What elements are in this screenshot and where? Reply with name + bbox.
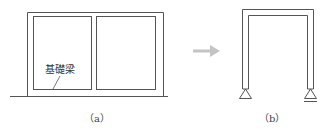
roller-support-icon [304, 89, 317, 102]
caption-b: （b） [259, 110, 285, 125]
caption-a: （a） [84, 110, 110, 125]
panel-a-frame [10, 13, 168, 97]
panel-b-frame [243, 10, 314, 90]
arrow-icon [193, 45, 220, 57]
foundation-beam-label: 基礎梁 [45, 61, 75, 76]
leader-line [53, 76, 60, 89]
pin-support-icon [240, 89, 252, 99]
